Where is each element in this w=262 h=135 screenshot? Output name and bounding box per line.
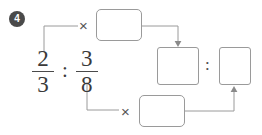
ratio-colon: : bbox=[62, 58, 68, 85]
answer-box-bottom[interactable] bbox=[139, 95, 185, 127]
answer-box-result-left[interactable] bbox=[157, 47, 199, 85]
fraction-left-denominator: 3 bbox=[35, 73, 51, 96]
answer-box-top[interactable] bbox=[96, 9, 142, 41]
multiplication-sign-top: × bbox=[79, 18, 88, 33]
fraction-left: 2 3 bbox=[32, 47, 54, 96]
answer-box-result-right[interactable] bbox=[219, 47, 251, 85]
fraction-right-denominator: 8 bbox=[79, 73, 95, 96]
multiplication-sign-bottom: × bbox=[121, 104, 130, 119]
fraction-left-numerator: 2 bbox=[35, 47, 51, 70]
result-ratio-colon: : bbox=[205, 56, 210, 73]
connector-topbox-to-middlebox bbox=[142, 26, 178, 43]
fraction-right-numerator: 3 bbox=[79, 47, 95, 70]
ratio-expression: 2 3 : 3 8 bbox=[32, 47, 98, 96]
connector-bottombox-to-rightbox bbox=[185, 90, 234, 111]
worksheet-problem: 4 2 3 : 3 8 × × : bbox=[0, 0, 262, 135]
fraction-right: 3 8 bbox=[76, 47, 98, 96]
arrowhead-up-rightbox bbox=[231, 86, 238, 92]
problem-number-badge: 4 bbox=[9, 11, 25, 27]
